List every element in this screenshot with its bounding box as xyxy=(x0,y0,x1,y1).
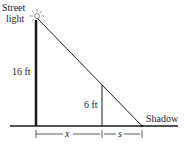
street-light-label-line1: Street xyxy=(2,3,25,13)
shadow-label: Shadow xyxy=(146,114,178,124)
shadow-tip-point xyxy=(141,125,144,128)
pole-height-label: 16 ft xyxy=(12,67,31,77)
distance-s-label: s xyxy=(118,129,122,139)
sun-burst-icon xyxy=(30,9,44,21)
street-light-label-line2: light xyxy=(6,14,24,24)
distance-s-measure xyxy=(104,130,142,138)
distance-x-label: x xyxy=(65,129,69,139)
person-height-label: 6 ft xyxy=(84,100,98,110)
